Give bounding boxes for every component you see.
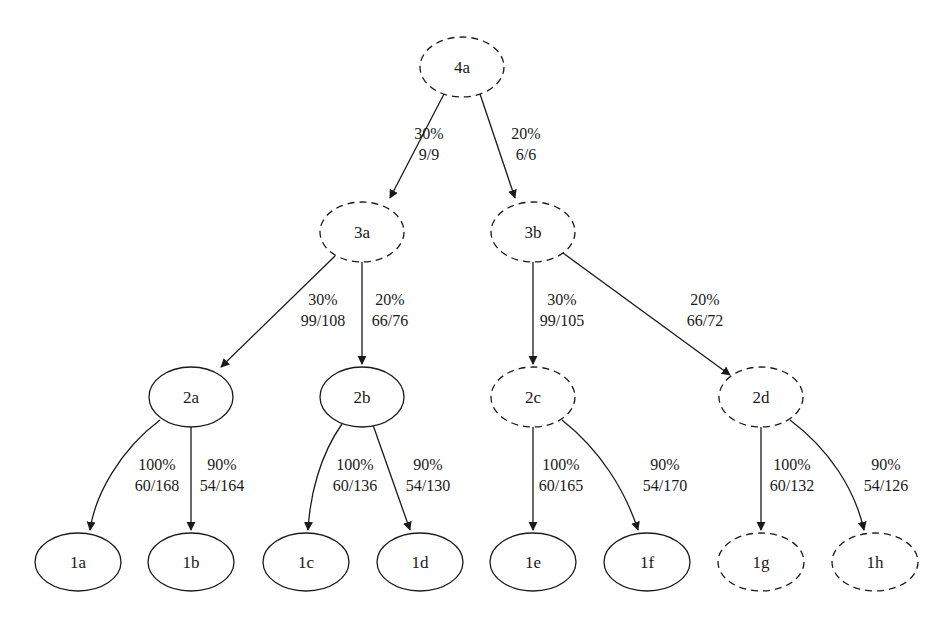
edge-percent-label: 90%	[207, 456, 236, 473]
edge-2c-1f: 90%54/170	[562, 420, 687, 530]
node-2c: 2c	[491, 367, 575, 427]
edge-percent-label: 20%	[511, 125, 540, 142]
edge-ratio-label: 54/130	[406, 477, 450, 494]
node-label: 2c	[525, 388, 542, 407]
edge-ratio-label: 54/164	[200, 477, 244, 494]
edge-ratio-label: 54/126	[864, 477, 908, 494]
node-4a: 4a	[420, 37, 504, 97]
edge-percent-label: 100%	[336, 456, 373, 473]
edge-percent-label: 100%	[138, 456, 175, 473]
edge-percent-label: 100%	[542, 456, 579, 473]
edge-percent-label: 20%	[375, 291, 404, 308]
node-label: 1a	[70, 553, 87, 572]
edge-ratio-label: 99/108	[301, 312, 345, 329]
node-3b: 3b	[491, 202, 575, 262]
node-label: 3a	[354, 223, 371, 242]
node-1a: 1a	[35, 533, 121, 591]
edge-ratio-label: 66/72	[687, 312, 723, 329]
edge-3a-2a: 30%99/108	[221, 256, 345, 367]
edge-percent-label: 100%	[773, 456, 810, 473]
edge-percent-label: 30%	[547, 291, 576, 308]
tree-diagram: 30%9/920%6/630%99/10820%66/7630%99/10520…	[0, 0, 949, 624]
edge-2b-1c: 100%60/136	[308, 424, 377, 530]
node-1d: 1d	[377, 533, 463, 591]
edge-arrow	[90, 420, 160, 530]
edge-percent-label: 20%	[690, 291, 719, 308]
node-label: 1c	[298, 553, 315, 572]
edge-percent-label: 90%	[650, 456, 679, 473]
node-label: 1g	[753, 553, 771, 572]
edge-percent-label: 90%	[413, 456, 442, 473]
node-2b: 2b	[320, 367, 404, 427]
node-label: 1d	[412, 553, 430, 572]
node-1c: 1c	[263, 533, 349, 591]
node-2d: 2d	[719, 367, 803, 427]
edge-ratio-label: 54/170	[643, 477, 687, 494]
node-1g: 1g	[718, 533, 804, 591]
edge-arrow	[562, 420, 638, 530]
edge-ratio-label: 60/132	[770, 477, 814, 494]
nodes-layer: 4a3a3b2a2b2c2d1a1b1c1d1e1f1g1h	[35, 37, 918, 591]
edges-layer: 30%9/920%6/630%99/10820%66/7630%99/10520…	[90, 94, 908, 530]
edge-2d-1h: 90%54/126	[790, 420, 908, 530]
edge-3b-2d: 20%66/72	[563, 253, 730, 375]
node-1h: 1h	[832, 533, 918, 591]
edge-percent-label: 30%	[414, 125, 443, 142]
edge-3b-2c: 30%99/105	[533, 262, 584, 364]
edge-ratio-label: 60/165	[539, 477, 583, 494]
node-label: 4a	[454, 58, 471, 77]
edge-2a-1a: 100%60/168	[90, 420, 179, 530]
edge-2c-1e: 100%60/165	[533, 427, 583, 530]
edge-arrow	[480, 94, 515, 198]
node-1e: 1e	[490, 533, 576, 591]
edge-ratio-label: 60/168	[135, 477, 179, 494]
edge-percent-label: 30%	[308, 291, 337, 308]
node-label: 1b	[183, 553, 200, 572]
node-3a: 3a	[320, 202, 404, 262]
edge-arrow	[790, 420, 864, 530]
edge-3a-2b: 20%66/76	[362, 262, 408, 364]
node-label: 1h	[867, 553, 885, 572]
node-label: 1e	[525, 553, 541, 572]
node-1b: 1b	[148, 533, 234, 591]
edge-arrow	[373, 425, 410, 530]
node-1f: 1f	[604, 533, 690, 591]
edge-2a-1b: 90%54/164	[191, 427, 244, 530]
node-label: 2d	[753, 388, 771, 407]
node-2a: 2a	[149, 367, 233, 427]
node-label: 3b	[525, 223, 542, 242]
edge-ratio-label: 60/136	[333, 477, 377, 494]
edge-2d-1g: 100%60/132	[761, 427, 814, 530]
node-label: 2b	[354, 388, 371, 407]
node-label: 1f	[640, 553, 655, 572]
edge-ratio-label: 66/76	[372, 312, 408, 329]
edge-ratio-label: 99/105	[540, 312, 584, 329]
edge-ratio-label: 6/6	[516, 146, 536, 163]
edge-ratio-label: 9/9	[419, 146, 439, 163]
edge-4a-3b: 20%6/6	[480, 94, 541, 198]
edge-2b-1d: 90%54/130	[373, 425, 450, 530]
edge-4a-3a: 30%9/9	[390, 94, 444, 198]
edge-percent-label: 90%	[871, 456, 900, 473]
node-label: 2a	[183, 388, 200, 407]
